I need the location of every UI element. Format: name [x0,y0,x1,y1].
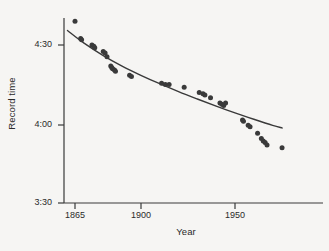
data-point [79,37,84,42]
y-tick-label: 3:30 [22,197,52,207]
data-point [265,143,270,148]
x-tick-label: 1865 [55,210,95,220]
data-point [113,69,118,74]
y-tick-label: 4:30 [22,39,52,49]
data-point [73,19,78,24]
chart-figure: Record time Year 4:304:003:30 1865190019… [0,0,329,251]
data-point [255,131,260,136]
data-point [182,85,187,90]
data-point [167,82,172,87]
x-tick-label: 1950 [215,210,255,220]
fitted-trend-curve [67,31,282,128]
y-tick-marks [58,45,64,203]
data-point [92,45,97,50]
x-axis-label: Year [162,226,210,237]
axis-lines [64,18,323,203]
x-tick-label: 1900 [121,210,161,220]
data-point [202,93,207,98]
x-tick-marks [75,203,235,209]
data-point-group [73,19,285,150]
data-point [223,100,228,105]
data-point [241,119,246,124]
data-point [105,54,110,59]
data-point [129,74,134,79]
data-point [248,124,253,129]
data-point [280,145,285,150]
y-tick-label: 4:00 [22,119,52,129]
data-point [208,95,213,100]
y-axis-label: Record time [6,74,17,134]
